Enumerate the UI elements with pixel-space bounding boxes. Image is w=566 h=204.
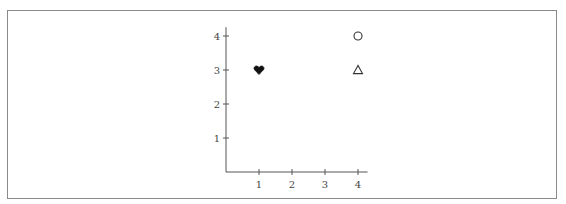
y-tick-label: 2 (214, 99, 220, 110)
scatter-chart: 12341234 (0, 0, 566, 204)
heart-marker-icon (254, 66, 264, 74)
ticks: 12341234 (214, 31, 362, 191)
y-tick-label: 1 (214, 133, 220, 144)
circle-marker-icon (354, 32, 362, 40)
x-tick-label: 1 (256, 179, 262, 190)
data-points (254, 32, 363, 75)
x-tick-label: 3 (322, 179, 328, 190)
axes (226, 27, 368, 172)
x-tick-label: 2 (289, 179, 295, 190)
y-tick-label: 4 (214, 31, 220, 42)
x-tick-label: 4 (355, 179, 361, 190)
y-tick-label: 3 (214, 65, 220, 76)
triangle-marker-icon (354, 66, 363, 74)
